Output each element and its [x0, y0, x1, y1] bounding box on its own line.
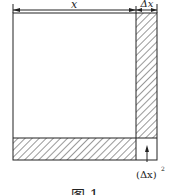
- figure-caption: 图 1: [71, 187, 98, 195]
- right-hatched-strip: [136, 13, 157, 138]
- dx-label: Δx: [140, 0, 154, 9]
- x-label: x: [71, 0, 78, 11]
- dx-squared-exponent: 2: [161, 165, 165, 172]
- x-arrow-left-icon: [13, 8, 20, 12]
- dx-squared-label: (Δx): [136, 169, 157, 180]
- pointer-arrow-icon: [145, 145, 149, 152]
- x-arrow-right-icon: [129, 8, 136, 12]
- bottom-hatched-strip: [13, 138, 136, 160]
- square-expansion-diagram: x Δx (Δx) 2 图 1: [0, 0, 171, 195]
